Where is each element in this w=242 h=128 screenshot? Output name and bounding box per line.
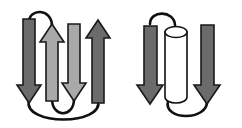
helix-cylinder-top-cap	[165, 27, 187, 38]
figure-root	[0, 0, 242, 128]
right-panel	[137, 14, 220, 116]
topology-diagram	[0, 0, 242, 128]
helix-cylinder-body	[165, 32, 187, 103]
